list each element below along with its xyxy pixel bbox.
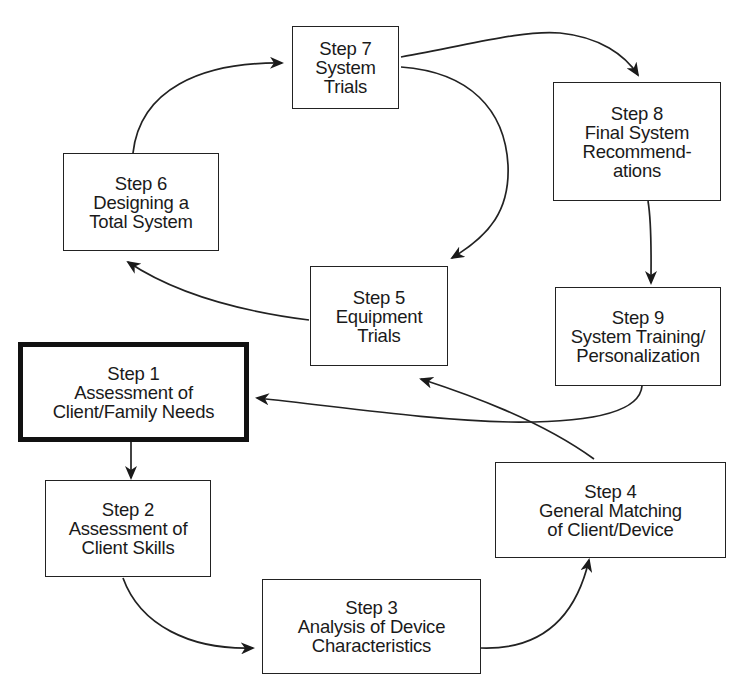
step-5-line-2: Trials: [357, 326, 400, 345]
step-1-line-2: Client/Family Needs: [53, 402, 215, 421]
step-2-title: Step 2: [102, 500, 154, 519]
step-2-line-1: Assessment of: [69, 519, 188, 538]
step-3-line-1: Analysis of Device: [298, 617, 446, 636]
step-2-box: Step 2 Assessment of Client Skills: [45, 480, 211, 577]
step-4-title: Step 4: [584, 482, 636, 501]
arrow-step8-to-step9: [648, 201, 651, 283]
step-5-line-1: Equipment: [336, 307, 423, 326]
step-1-line-1: Assessment of: [74, 383, 193, 402]
step-1-title: Step 1: [107, 364, 159, 383]
step-6-title: Step 6: [115, 174, 167, 193]
step-8-title: Step 8: [611, 104, 663, 123]
step-5-title: Step 5: [353, 288, 405, 307]
step-7-line-2: Trials: [324, 77, 367, 96]
arrow-step3-to-step4: [481, 560, 589, 648]
arrow-step9-to-step1: [257, 386, 642, 422]
step-4-line-2: of Client/Device: [547, 520, 673, 539]
step-8-line-3: ations: [613, 161, 661, 180]
step-3-box: Step 3 Analysis of Device Characteristic…: [262, 579, 481, 674]
arrow-step5-to-step6: [128, 262, 309, 320]
step-9-line-1: System Training/: [571, 327, 706, 346]
step-2-line-2: Client Skills: [81, 538, 174, 557]
step-3-line-2: Characteristics: [312, 636, 431, 655]
step-6-box: Step 6 Designing a Total System: [63, 153, 219, 251]
step-8-box: Step 8 Final System Recommend- ations: [553, 82, 721, 201]
step-1-box: Step 1 Assessment of Client/Family Needs: [18, 342, 249, 442]
step-9-line-2: Personalization: [576, 346, 700, 365]
step-3-title: Step 3: [345, 598, 397, 617]
step-8-line-2: Recommend-: [582, 142, 691, 161]
step-9-title: Step 9: [612, 308, 664, 327]
arrow-step7-to-step8: [401, 33, 638, 75]
step-7-box: Step 7 System Trials: [292, 26, 399, 109]
step-6-line-1: Designing a: [93, 193, 189, 212]
step-6-line-2: Total System: [89, 212, 193, 231]
step-8-line-1: Final System: [585, 123, 690, 142]
step-7-line-1: System: [315, 58, 375, 77]
step-5-box: Step 5 Equipment Trials: [310, 266, 448, 366]
arrow-step7-to-step5: [401, 67, 508, 258]
arrow-step6-to-step7: [133, 63, 282, 153]
step-4-line-1: General Matching: [539, 501, 682, 520]
arrow-step2-to-step3: [123, 578, 253, 648]
step-7-title: Step 7: [319, 39, 371, 58]
step-4-box: Step 4 General Matching of Client/Device: [495, 462, 726, 558]
step-9-box: Step 9 System Training/ Personalization: [555, 287, 721, 386]
